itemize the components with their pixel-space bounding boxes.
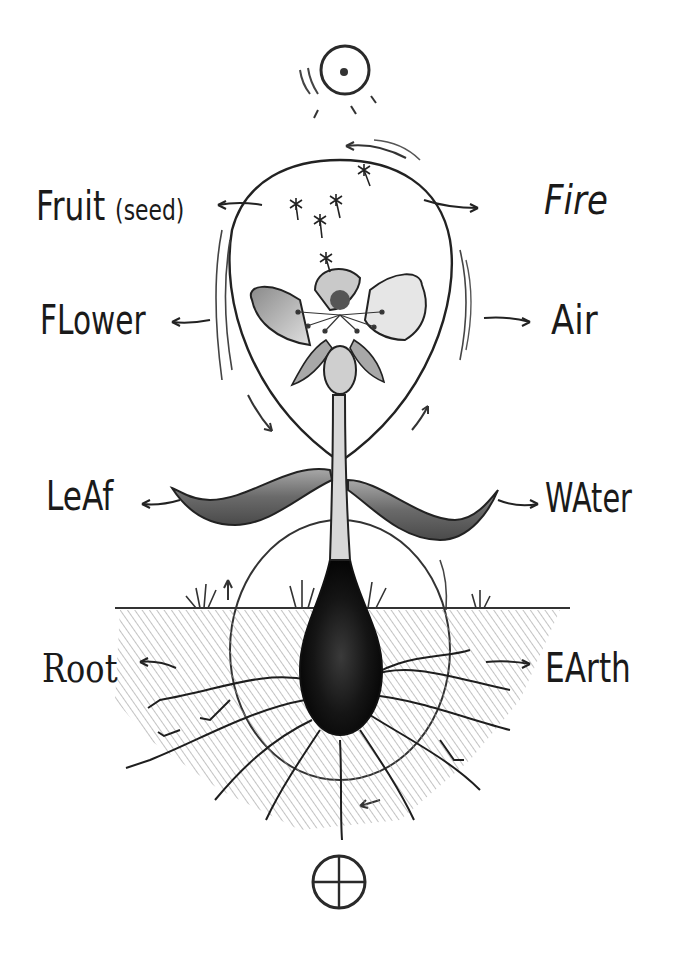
label-earth: EArth [545,648,631,688]
label-fruit-text: Fruit [36,183,105,229]
label-fruit-note: (seed) [115,194,184,227]
label-air: Air [551,300,598,340]
plant-elements-diagram: Fruit (seed) Fire FLower Air LeAf WAter … [0,0,685,961]
stem [330,395,350,560]
label-flower: FLower [40,300,146,340]
label-fruit-seed: Fruit (seed) [36,186,184,226]
earth-symbol-icon [313,856,365,908]
sun-symbol-icon [300,46,376,118]
label-leaf: LeAf [46,476,113,516]
flower-head [251,269,426,394]
label-fire: Fire [544,180,608,220]
label-water: WAter [545,478,632,518]
label-root: Root [42,648,117,688]
taproot-bulb [300,560,382,735]
floating-seeds [290,164,370,272]
